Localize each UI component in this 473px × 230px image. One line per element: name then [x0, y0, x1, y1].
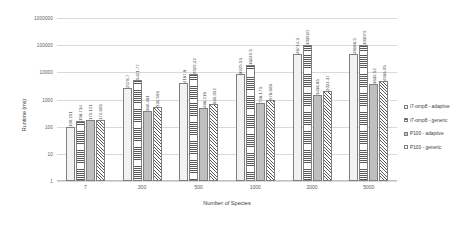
bar[interactable]: 978.608	[266, 100, 275, 181]
legend-item[interactable]: i7-omp8 - adaptive	[404, 104, 450, 109]
runtime-bar-chart: Runtime (ms) 100000010000010000100010010…	[0, 0, 473, 230]
bar[interactable]: 3639.52	[369, 84, 378, 181]
bar[interactable]: 4187.8	[179, 83, 188, 181]
gridline	[57, 181, 397, 182]
x-axis-title: Number of Species	[57, 200, 397, 206]
bar-value-label: 669.092	[211, 88, 216, 104]
bar-slot: 978.608	[266, 18, 275, 181]
bar-group: 2578.75421.77369.481531.566	[114, 18, 171, 181]
bar-group: 48714.31035101438.852024.37	[284, 18, 341, 181]
x-axis-tick-label: 500	[170, 184, 227, 190]
bar-value-label: 1438.85	[315, 79, 320, 95]
bar-value-label: 179.121	[88, 104, 93, 120]
bar-slot: 179.121	[86, 18, 95, 181]
bar-slot: 758.173	[256, 18, 265, 181]
legend-swatch-icon	[404, 118, 408, 122]
legend-item[interactable]: P100 - generic	[404, 145, 450, 150]
bar[interactable]: 8925.53	[236, 74, 245, 181]
y-axis-tick-label: 10	[48, 151, 53, 156]
bar-slot: 4187.8	[179, 18, 188, 181]
y-axis-tick-label: 100	[45, 124, 53, 129]
legend-item[interactable]: i7-omp8 - generic	[404, 118, 450, 123]
y-axis-title: Runtime (ms)	[21, 99, 27, 131]
bar-group: 48186.51030793639.524966.05	[340, 18, 397, 181]
legend-label: i7-omp8 - adaptive	[410, 104, 450, 109]
bar[interactable]: 486.218	[199, 108, 208, 181]
bar[interactable]: 1438.85	[313, 95, 322, 181]
bar[interactable]: 18249.5	[246, 65, 255, 181]
x-axis-tick-label: 5000	[340, 184, 397, 190]
bar-group: 4187.89029.42486.218669.092	[170, 18, 227, 181]
bar-slot: 1438.85	[313, 18, 322, 181]
bar-slot: 369.481	[143, 18, 152, 181]
bar-value-label: 2578.7	[125, 75, 130, 88]
bar-slot: 8925.53	[236, 18, 245, 181]
bar-value-label: 758.173	[258, 87, 263, 103]
legend-label: i7-omp8 - generic	[410, 118, 447, 123]
bar[interactable]: 174.605	[96, 120, 105, 181]
bar[interactable]: 9029.42	[189, 74, 198, 181]
bar-value-label: 174.605	[98, 104, 103, 120]
bar[interactable]: 369.481	[143, 111, 152, 181]
chart-legend: i7-omp8 - adaptivei7-omp8 - genericP100 …	[404, 104, 450, 150]
bar-groups: 100.291158.714179.121174.6052578.75421.7…	[57, 18, 397, 181]
bar[interactable]: 4966.05	[379, 81, 388, 181]
x-axis-tick-label: 1000	[227, 184, 284, 190]
bar[interactable]: 2024.37	[323, 91, 332, 181]
bar-value-label: 103079	[361, 30, 366, 45]
legend-swatch-icon	[404, 105, 408, 109]
legend-label: P100 - adaptive	[410, 131, 444, 136]
bar[interactable]: 2578.7	[123, 88, 132, 181]
bar-value-label: 100.291	[68, 111, 73, 127]
bar-value-label: 48186.5	[351, 38, 356, 54]
bar-group: 100.291158.714179.121174.605	[57, 18, 114, 181]
bar-slot: 9029.42	[189, 18, 198, 181]
bar[interactable]: 5421.77	[133, 80, 142, 181]
bar-slot: 158.714	[76, 18, 85, 181]
bar-value-label: 3639.52	[371, 68, 376, 84]
bar-value-label: 8925.53	[238, 58, 243, 74]
bar-value-label: 4966.05	[381, 65, 386, 81]
x-axis-ticks: 7300500100020005000	[57, 184, 397, 190]
y-axis-tick-label: 1000	[42, 97, 53, 102]
bar[interactable]: 531.566	[153, 107, 162, 181]
x-axis-tick-label: 7	[57, 184, 114, 190]
bar-slot: 100.291	[66, 18, 75, 181]
bar[interactable]: 48714.3	[293, 54, 302, 181]
bar[interactable]: 100.291	[66, 127, 75, 181]
bar-value-label: 48714.3	[295, 38, 300, 54]
bar-slot: 48186.5	[349, 18, 358, 181]
bar[interactable]: 103079	[359, 45, 368, 181]
y-axis-tick-label: 1	[50, 179, 53, 184]
bar-slot: 4966.05	[379, 18, 388, 181]
bar-slot: 103510	[303, 18, 312, 181]
plot-area: 1000000100000100001000100101 100.291158.…	[57, 18, 397, 181]
bar-value-label: 4187.8	[181, 69, 186, 82]
bar-slot: 174.605	[96, 18, 105, 181]
bar[interactable]: 103510	[303, 45, 312, 181]
bar-value-label: 978.608	[268, 84, 273, 100]
bar[interactable]: 758.173	[256, 103, 265, 181]
bar-value-label: 2024.37	[325, 75, 330, 91]
bar-slot: 486.218	[199, 18, 208, 181]
bar[interactable]: 179.121	[86, 120, 95, 181]
bar-value-label: 369.481	[145, 95, 150, 111]
bar-slot: 5421.77	[133, 18, 142, 181]
bar[interactable]: 158.714	[76, 121, 85, 181]
bar-slot: 103079	[359, 18, 368, 181]
bar-group: 8925.5318249.5758.173978.608	[227, 18, 284, 181]
bar[interactable]: 48186.5	[349, 54, 358, 181]
bar-value-label: 18249.5	[248, 49, 253, 65]
x-axis-tick-label: 2000	[284, 184, 341, 190]
legend-swatch-icon	[404, 145, 408, 149]
bar[interactable]: 669.092	[209, 104, 218, 181]
bar-value-label: 531.566	[155, 91, 160, 107]
legend-label: P100 - generic	[410, 145, 441, 150]
bar-slot: 531.566	[153, 18, 162, 181]
bar-value-label: 103510	[305, 30, 310, 45]
x-axis-tick-label: 300	[114, 184, 171, 190]
legend-item[interactable]: P100 - adaptive	[404, 131, 450, 136]
bar-slot: 48714.3	[293, 18, 302, 181]
bar-value-label: 158.714	[78, 105, 83, 121]
bar-slot: 3639.52	[369, 18, 378, 181]
